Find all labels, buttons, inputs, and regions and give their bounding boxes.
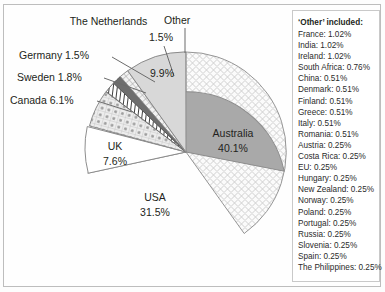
legend-row: Spain: 0.25% [298,251,375,262]
slice-label-uk-value: 7.6% [103,155,127,167]
legend-row: Norway: 0.25% [298,195,375,206]
callout-sweden: Sweden 1.8% [17,71,82,84]
other-legend-box: ‘Other’ included: France: 1.02%India: 1.… [292,10,380,282]
legend-row: The Philippines: 0.25% [298,262,375,273]
slice-label-australia-name: Australia [213,127,254,139]
legend-row: Finland: 0.51% [298,96,375,107]
slice-label-usa-name: USA [144,191,166,203]
legend-row: Romania: 0.51% [298,129,375,140]
legend-title: ‘Other’ included: [298,17,375,28]
legend-row: Russia: 0.25% [298,229,375,240]
legend-row: France: 1.02% [298,29,375,40]
legend-row: Denmark: 0.51% [298,84,375,95]
legend-row: South Africa: 0.76% [298,62,375,73]
legend-row: Italy: 0.51% [298,118,375,129]
legend-row: Ireland: 1.02% [298,51,375,62]
slice-label-other-value: 9.9% [150,67,174,79]
callout-other-name: Other [164,14,190,27]
legend-row: Hungary: 0.25% [298,173,375,184]
legend-row: EU: 0.25% [298,162,375,173]
callout-netherlands-value: 1.5% [131,31,191,44]
callout-germany: Germany 1.5% [19,49,89,62]
slice-label-uk-name: UK [108,140,123,152]
legend-row: New Zealand: 0.25% [298,184,375,195]
legend-row: India: 1.02% [298,40,375,51]
slice-label-usa-value: 31.5% [140,206,170,218]
callout-netherlands-name: The Netherlands [51,15,166,28]
legend-row: Costa Rica: 0.25% [298,151,375,162]
callout-canada: Canada 6.1% [10,94,74,107]
legend-row: China: 0.51% [298,73,375,84]
legend-row: Austria: 0.25% [298,140,375,151]
legend-row: Portugal: 0.25% [298,218,375,229]
legend-row: Slovenia: 0.25% [298,240,375,251]
slice-label-australia-value: 40.1% [218,142,248,154]
pie-chart-figure: 9.9% Australia 40.1% USA 31.5% UK 7.6% T… [0,0,385,292]
pie-chart-area: 9.9% Australia 40.1% USA 31.5% UK 7.6% T… [0,0,290,292]
legend-rows: France: 1.02%India: 1.02%Ireland: 1.02%S… [298,29,375,273]
legend-row: Greece: 0.51% [298,107,375,118]
legend-row: Poland: 0.25% [298,207,375,218]
